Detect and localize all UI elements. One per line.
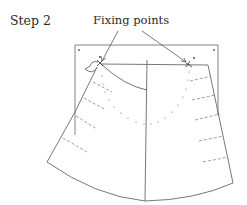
dashed-marks-left — [63, 82, 112, 152]
board-corner-pin-left — [78, 49, 80, 51]
dashed-marks-right — [190, 76, 228, 162]
dotted-hip-line — [101, 71, 189, 124]
annotation-arrows — [101, 31, 186, 62]
skirt-pattern-diagram — [0, 0, 247, 205]
fixing-pin-right — [186, 57, 195, 67]
board-corner-pin-right — [213, 49, 215, 51]
